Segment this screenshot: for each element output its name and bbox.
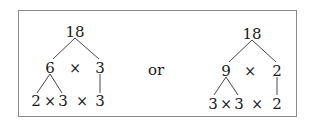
left-root: 18 (65, 23, 84, 41)
left-l2-times-1: × (44, 93, 56, 109)
factor-trees: 18 6 × 3 2 × 3 × 3 or 18 9 × 2 3 × 3 × 2 (0, 0, 312, 128)
left-l2-a: 2 (31, 92, 41, 110)
right-l1-left: 9 (221, 62, 231, 80)
right-l2-a: 3 (208, 95, 218, 113)
right-l2-times-2: × (251, 96, 263, 112)
left-l1-left: 6 (45, 59, 55, 77)
right-root: 18 (242, 25, 261, 43)
right-l2-b: 3 (234, 95, 244, 113)
left-l1-times: × (69, 60, 81, 76)
left-l1-right: 3 (95, 59, 105, 77)
left-l2-times-2: × (76, 93, 88, 109)
right-l1-times: × (244, 63, 256, 79)
or-label: or (148, 61, 165, 79)
left-l2-b: 3 (58, 92, 68, 110)
left-l2-c: 3 (95, 92, 105, 110)
right-l2-c: 2 (272, 95, 282, 113)
right-l1-right: 2 (272, 62, 282, 80)
right-l2-times-1: × (220, 96, 232, 112)
